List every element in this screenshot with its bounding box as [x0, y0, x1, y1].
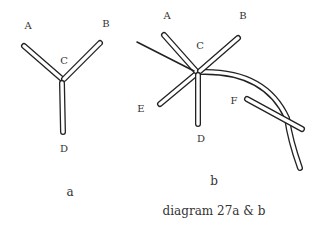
- label-b-D: D: [197, 133, 205, 144]
- label-b-B: B: [239, 10, 246, 21]
- panel-a-caption: a: [66, 185, 73, 199]
- label-a-D: D: [60, 143, 68, 154]
- label-b-F: F: [231, 95, 238, 106]
- label-a-A: A: [24, 20, 31, 31]
- figure-caption: diagram 27a & b: [163, 204, 266, 218]
- label-a-C: C: [60, 55, 68, 66]
- diagram-canvas: A B C D a A B C E F D b diagram 27a & b: [0, 0, 329, 230]
- label-a-B: B: [102, 18, 109, 29]
- stitch-drawing: [0, 0, 329, 230]
- panel-b-stitches: [137, 35, 302, 168]
- label-b-E: E: [137, 103, 144, 114]
- label-b-A: A: [163, 10, 170, 21]
- panel-b-caption: b: [210, 174, 218, 188]
- label-b-C: C: [196, 40, 204, 51]
